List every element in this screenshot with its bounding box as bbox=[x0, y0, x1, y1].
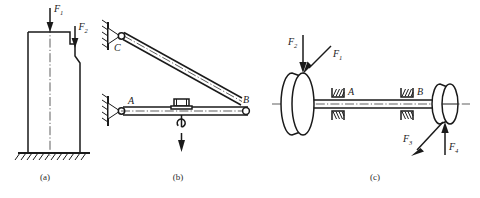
force-f3-arrow bbox=[411, 122, 443, 156]
bearing-b-lower bbox=[401, 111, 413, 120]
force-f1-label: F1 bbox=[332, 48, 342, 61]
force-f2-label: F2 bbox=[78, 21, 89, 34]
panel-b-caption: (b) bbox=[173, 172, 184, 182]
diagonal-member-cb bbox=[123, 33, 242, 106]
force-f3-label: F3 bbox=[402, 133, 413, 146]
stepped-column-outline bbox=[28, 32, 80, 153]
force-f4-label: F4 bbox=[448, 141, 459, 154]
bearing-a-upper bbox=[332, 88, 344, 97]
trolley bbox=[171, 99, 192, 109]
ground-hatching bbox=[15, 153, 86, 160]
force-f1-arrow bbox=[303, 46, 331, 74]
force-f4-arrow bbox=[441, 122, 448, 155]
force-f2-label: F2 bbox=[287, 36, 298, 49]
wall-support-a bbox=[102, 94, 125, 126]
pin-joint-b bbox=[243, 108, 250, 115]
right-pulley bbox=[432, 84, 458, 124]
panel-c: A B bbox=[272, 35, 470, 182]
load-arrow bbox=[178, 133, 185, 152]
joint-c-label: C bbox=[114, 42, 121, 53]
joint-b-label: B bbox=[243, 94, 249, 105]
panel-c-caption: (c) bbox=[370, 172, 380, 182]
hoist-hook bbox=[177, 115, 185, 127]
panel-b: C A B bbox=[102, 20, 250, 182]
joint-a-label: A bbox=[127, 95, 135, 106]
left-pulley bbox=[281, 73, 314, 135]
bearing-a-label: A bbox=[347, 86, 355, 97]
force-f1-label: F1 bbox=[53, 3, 63, 16]
pin-joint-c bbox=[118, 33, 124, 39]
bearing-b-upper bbox=[401, 88, 413, 97]
bearing-a-lower bbox=[332, 111, 344, 120]
mechanics-figure: F1 F2 (a) bbox=[0, 0, 480, 198]
panel-a-caption: (a) bbox=[40, 172, 50, 182]
panel-a: F1 F2 (a) bbox=[15, 3, 90, 182]
bearing-b-label: B bbox=[417, 86, 423, 97]
